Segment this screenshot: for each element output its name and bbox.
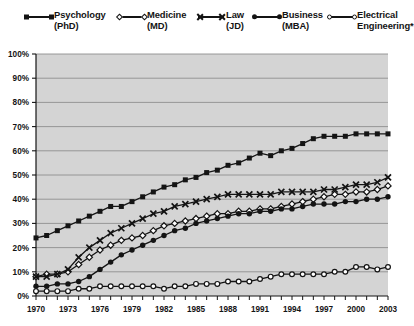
data-point-circle bbox=[289, 206, 294, 211]
data-point-square bbox=[162, 185, 167, 190]
diamond-open-marker-icon bbox=[117, 10, 147, 23]
data-point-square bbox=[172, 182, 177, 187]
data-point-circle-open bbox=[108, 284, 113, 289]
data-point-circle bbox=[183, 226, 188, 231]
data-point-circle bbox=[332, 201, 337, 206]
data-point-circle bbox=[343, 199, 348, 204]
data-point-circle bbox=[300, 204, 305, 209]
data-point-circle bbox=[247, 211, 252, 216]
data-point-circle-open bbox=[354, 265, 359, 270]
x-tick-label: 1973 bbox=[59, 305, 78, 314]
y-tick-label: 100% bbox=[8, 50, 30, 59]
data-point-circle bbox=[353, 199, 358, 204]
data-point-square bbox=[98, 209, 103, 214]
x-tick-label: 1982 bbox=[155, 305, 174, 314]
legend-label-business: Business (MBA) bbox=[282, 9, 323, 31]
data-point-square bbox=[364, 131, 369, 136]
data-point-circle-open bbox=[162, 286, 167, 291]
data-point-circle bbox=[97, 267, 102, 272]
data-point-square bbox=[87, 214, 92, 219]
data-point-square bbox=[44, 233, 49, 238]
data-point-square bbox=[108, 204, 113, 209]
data-point-circle bbox=[236, 211, 241, 216]
data-point-circle-open bbox=[279, 272, 284, 277]
data-point-square bbox=[204, 170, 209, 175]
data-point-circle bbox=[65, 281, 70, 286]
data-point-circle-open bbox=[194, 282, 199, 287]
x-tick-label: 1985 bbox=[187, 305, 206, 314]
data-point-circle-open bbox=[290, 272, 295, 277]
data-point-square bbox=[268, 153, 273, 158]
data-point-square bbox=[311, 136, 316, 141]
legend-label-law: Law (JD) bbox=[226, 9, 244, 31]
square-filled-marker-icon bbox=[24, 10, 54, 23]
x-tick-label: 1991 bbox=[251, 305, 270, 314]
y-tick-label: 50% bbox=[13, 171, 30, 180]
data-point-square bbox=[236, 160, 241, 165]
x-tick-marks bbox=[36, 296, 388, 300]
data-point-square bbox=[354, 131, 359, 136]
data-point-circle-open bbox=[311, 272, 316, 277]
data-point-circle bbox=[311, 201, 316, 206]
x-marker-icon bbox=[196, 10, 226, 23]
data-point-square bbox=[343, 134, 348, 139]
data-point-circle bbox=[204, 218, 209, 223]
data-point-circle-open bbox=[247, 279, 252, 284]
data-point-circle bbox=[172, 228, 177, 233]
data-point-circle bbox=[140, 242, 145, 247]
x-tick-label: 1976 bbox=[91, 305, 110, 314]
legend-item-business: Business (MBA) bbox=[252, 9, 323, 31]
data-point-circle bbox=[76, 279, 81, 284]
chart-plot-area: 0%10%20%30%40%50%60%70%80%90%100% 197019… bbox=[0, 44, 406, 326]
y-tick-label: 40% bbox=[13, 195, 30, 204]
data-point-circle-open bbox=[183, 284, 188, 289]
data-point-circle-open bbox=[98, 284, 103, 289]
y-tick-label: 20% bbox=[13, 244, 30, 253]
y-tick-label: 10% bbox=[13, 268, 30, 277]
data-point-circle-open bbox=[130, 284, 135, 289]
legend-item-law: Law (JD) bbox=[196, 9, 244, 31]
legend-item-medicine: Medicine (MD) bbox=[117, 9, 186, 31]
data-point-square bbox=[247, 156, 252, 161]
data-point-circle-open bbox=[151, 284, 156, 289]
data-point-square bbox=[119, 204, 124, 209]
data-point-circle bbox=[87, 274, 92, 279]
data-point-circle-open bbox=[364, 265, 369, 270]
legend-item-psychology: Psychology (PhD) bbox=[24, 9, 106, 31]
data-point-square bbox=[183, 177, 188, 182]
legend-label-medicine: Medicine (MD) bbox=[147, 9, 186, 31]
y-axis-tick-labels: 0%10%20%30%40%50%60%70%80%90%100% bbox=[8, 50, 30, 301]
x-tick-label: 1979 bbox=[123, 305, 142, 314]
data-point-circle-open bbox=[236, 279, 241, 284]
data-point-circle-open bbox=[119, 284, 124, 289]
legend-item-electrical-engineering: Electrical Engineering* bbox=[327, 9, 414, 31]
data-point-circle bbox=[268, 209, 273, 214]
data-point-square bbox=[151, 189, 156, 194]
data-point-square bbox=[300, 141, 305, 146]
data-point-square bbox=[76, 218, 81, 223]
data-point-circle-open bbox=[258, 277, 263, 282]
data-point-circle-open bbox=[322, 272, 327, 277]
data-point-circle-open bbox=[332, 269, 337, 274]
y-tick-label: 60% bbox=[13, 147, 30, 156]
data-point-square bbox=[386, 131, 391, 136]
data-point-circle-open bbox=[300, 272, 305, 277]
x-tick-label: 1970 bbox=[27, 305, 46, 314]
x-tick-label: 1994 bbox=[283, 305, 302, 314]
legend-label-electrical-engineering: Electrical Engineering* bbox=[357, 9, 414, 31]
x-tick-label: 2000 bbox=[347, 305, 366, 314]
data-point-circle-open bbox=[268, 274, 273, 279]
data-point-square bbox=[130, 199, 135, 204]
circle-open-marker-icon bbox=[327, 10, 357, 23]
data-point-square bbox=[194, 175, 199, 180]
legend-label-psychology: Psychology (PhD) bbox=[54, 9, 106, 31]
data-point-circle-open bbox=[76, 286, 81, 291]
data-point-circle bbox=[55, 281, 60, 286]
circle-filled-marker-icon bbox=[252, 10, 282, 23]
y-tick-label: 90% bbox=[13, 74, 30, 83]
y-tick-label: 80% bbox=[13, 98, 30, 107]
data-point-circle-open bbox=[66, 289, 71, 294]
data-point-circle-open bbox=[215, 282, 220, 287]
data-point-square bbox=[140, 194, 145, 199]
data-point-square bbox=[258, 151, 263, 156]
